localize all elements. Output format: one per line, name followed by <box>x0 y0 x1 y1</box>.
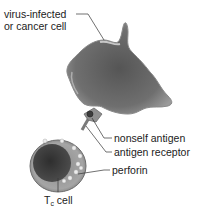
target-cell-label: virus-infected or cancer cell <box>4 8 66 32</box>
perforin-label: perforin <box>112 164 148 176</box>
tc-cell-label: Tc cell <box>44 194 73 209</box>
antigen-receptor-label: antigen receptor <box>114 146 190 158</box>
target-cell-label-line2: or cancer cell <box>4 20 66 32</box>
target-cell <box>67 23 172 114</box>
nonself-antigen-dot <box>87 111 93 117</box>
antigen-receptor-connector <box>82 108 102 130</box>
nonself-antigen-label: nonself antigen <box>114 132 185 144</box>
target-cell-label-line1: virus-infected <box>4 8 66 20</box>
tc-cell-label-suffix: cell <box>54 194 73 206</box>
